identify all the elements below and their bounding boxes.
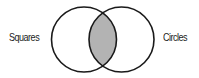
label-squares: Squares (9, 31, 39, 43)
label-circles: Circles (163, 31, 187, 43)
